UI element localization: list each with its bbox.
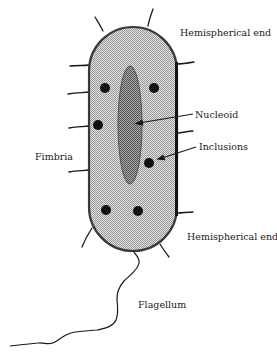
flagellum [10, 251, 139, 346]
nucleoid [118, 66, 142, 184]
bacterium-diagram: Hemispherical end Nucleoid Inclusions Fi… [0, 0, 277, 356]
label-fimbria: Fimbria [35, 152, 73, 162]
label-bottom-hemispherical-end: Hemispherical end [187, 232, 277, 242]
label-inclusions: Inclusions [199, 142, 248, 152]
label-nucleoid: Nucleoid [195, 110, 238, 120]
label-flagellum: Flagellum [138, 300, 186, 310]
label-top-hemispherical-end: Hemispherical end [180, 28, 271, 38]
